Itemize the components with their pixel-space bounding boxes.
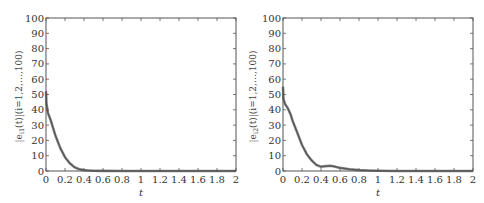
x-tick-label: 2 (470, 174, 476, 185)
x-tick-label: 1.6 (190, 174, 206, 185)
x-tick-label: 2 (233, 174, 239, 185)
y-tick-label: 100 (25, 13, 44, 24)
y-tick-label: 50 (31, 89, 44, 100)
y-tick-label: 50 (268, 89, 281, 100)
x-tick-label: 0.8 (351, 174, 367, 185)
x-tick-label: 1.8 (446, 174, 462, 185)
x-axis-label: t (139, 187, 144, 198)
y-tick-label: 10 (268, 150, 281, 161)
y-tick-label: 80 (268, 43, 281, 54)
x-tick-label: 0.8 (114, 174, 130, 185)
y-tick-label: 0 (38, 166, 44, 177)
y-tick-label: 80 (31, 43, 44, 54)
x-tick-label: 1.2 (389, 174, 405, 185)
plot-area-right: 00.20.40.60.811.21.41.61.820102030405060… (242, 0, 484, 203)
y-tick-label: 20 (268, 135, 281, 146)
x-tick-label: 1.2 (152, 174, 168, 185)
y-axis-label: |ei1(t)|(i=1,2,…,100) (14, 51, 26, 143)
y-tick-label: 40 (268, 104, 281, 115)
y-tick-label: 70 (31, 58, 44, 69)
series-line-band (283, 87, 473, 171)
x-tick-label: 0.6 (332, 174, 348, 185)
axes-frame (283, 18, 473, 171)
axes-frame (46, 18, 236, 171)
x-tick-label: 1 (138, 174, 144, 185)
y-tick-label: 20 (31, 135, 44, 146)
x-tick-label: 1.6 (427, 174, 443, 185)
y-tick-label: 10 (31, 150, 44, 161)
x-axis-label: t (376, 187, 381, 198)
x-tick-label: 0.6 (95, 174, 111, 185)
series-line-band (46, 91, 236, 171)
y-tick-label: 40 (31, 104, 44, 115)
plot-area-left: 00.20.40.60.811.21.41.61.820102030405060… (0, 0, 242, 203)
x-tick-label: 0.4 (76, 174, 92, 185)
chart-right: 00.20.40.60.811.21.41.61.820102030405060… (242, 0, 484, 203)
x-tick-label: 1 (375, 174, 381, 185)
y-tick-label: 60 (268, 74, 281, 85)
y-tick-label: 90 (268, 28, 281, 39)
y-tick-label: 90 (31, 28, 44, 39)
y-tick-label: 30 (31, 120, 44, 131)
x-tick-label: 1.4 (408, 174, 424, 185)
x-tick-label: 1.8 (209, 174, 225, 185)
x-tick-label: 0.2 (294, 174, 310, 185)
series-line (46, 91, 236, 171)
y-axis-label: |ei2(t)|(i=1,2,…,100) (248, 51, 260, 143)
x-tick-label: 0.4 (313, 174, 329, 185)
x-tick-label: 0.2 (57, 174, 73, 185)
y-tick-label: 100 (262, 13, 281, 24)
chart-left: 00.20.40.60.811.21.41.61.820102030405060… (0, 0, 242, 203)
y-tick-label: 0 (275, 166, 281, 177)
y-tick-label: 30 (268, 120, 281, 131)
x-tick-label: 1.4 (171, 174, 187, 185)
y-tick-label: 60 (31, 74, 44, 85)
y-tick-label: 70 (268, 58, 281, 69)
